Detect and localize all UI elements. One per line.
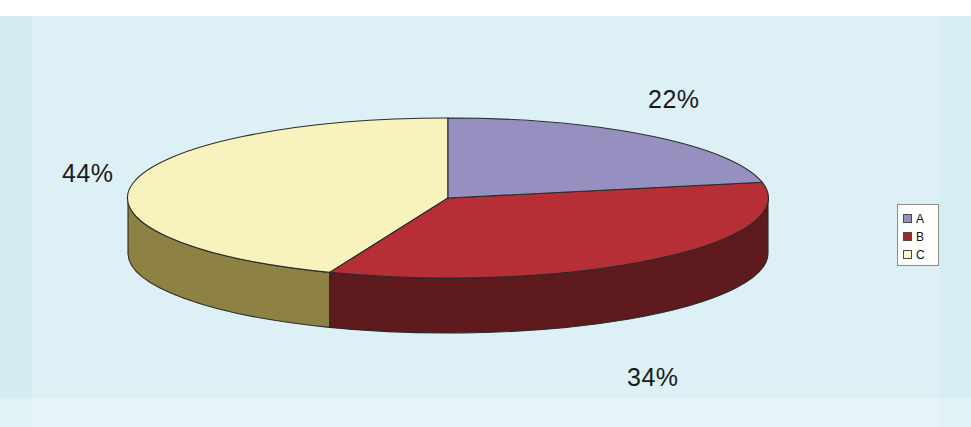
pie-chart-graphic: .slice-top { stroke: #2b2b2b; stroke-wid… bbox=[0, 0, 971, 427]
legend-swatch-a bbox=[903, 214, 912, 223]
chart-legend: A B C bbox=[897, 204, 939, 266]
legend-label-b: B bbox=[916, 231, 924, 243]
legend-label-a: A bbox=[916, 213, 924, 225]
legend-item-a[interactable]: A bbox=[903, 210, 938, 227]
legend-swatch-b bbox=[903, 232, 912, 241]
data-label-a: 22% bbox=[648, 85, 700, 114]
pie-chart-screenshot: .slice-top { stroke: #2b2b2b; stroke-wid… bbox=[0, 0, 971, 427]
legend-label-c: C bbox=[916, 249, 925, 261]
data-label-b: 34% bbox=[627, 363, 679, 392]
legend-item-b[interactable]: B bbox=[903, 228, 938, 245]
legend-swatch-c bbox=[903, 250, 912, 259]
data-label-c: 44% bbox=[62, 159, 114, 188]
legend-item-c[interactable]: C bbox=[903, 246, 938, 263]
